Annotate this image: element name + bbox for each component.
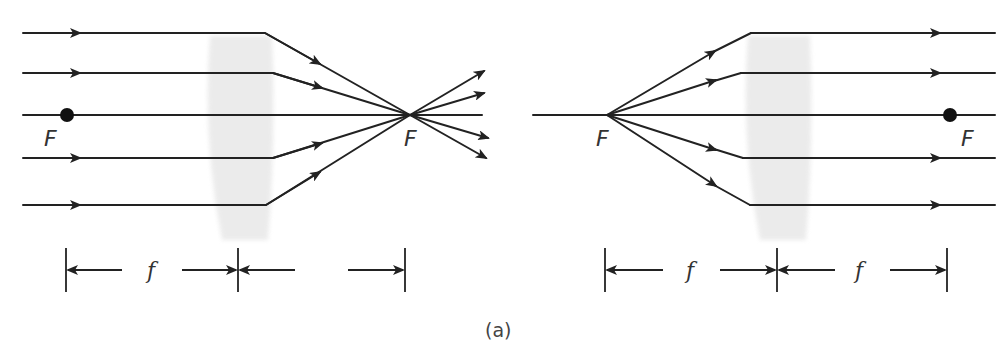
focal-label-right-near: F [596,126,609,151]
figure-caption: (a) [485,319,511,341]
right-panel: F F f f [533,33,995,292]
dimension-label-left-1: f [145,258,159,283]
focal-point-dot-right [943,108,957,122]
dimension-lines-right [605,248,947,292]
focal-point-dot-left [60,108,74,122]
dimension-label-right-2: f [853,258,867,283]
converging-lens-right [746,36,812,240]
dimension-label-right-1: f [684,258,698,283]
converging-arrows-left [265,33,322,205]
left-panel: F F f [23,33,488,292]
lens-ray-diagram: F F f [0,0,1002,362]
focal-label-left-near: F [44,126,57,151]
focal-label-left-far: F [404,126,417,151]
dimension-lines-left [66,248,405,292]
focal-label-right-far: F [961,126,974,151]
converging-lens-left [208,36,274,240]
diverging-rays-right [607,33,751,205]
